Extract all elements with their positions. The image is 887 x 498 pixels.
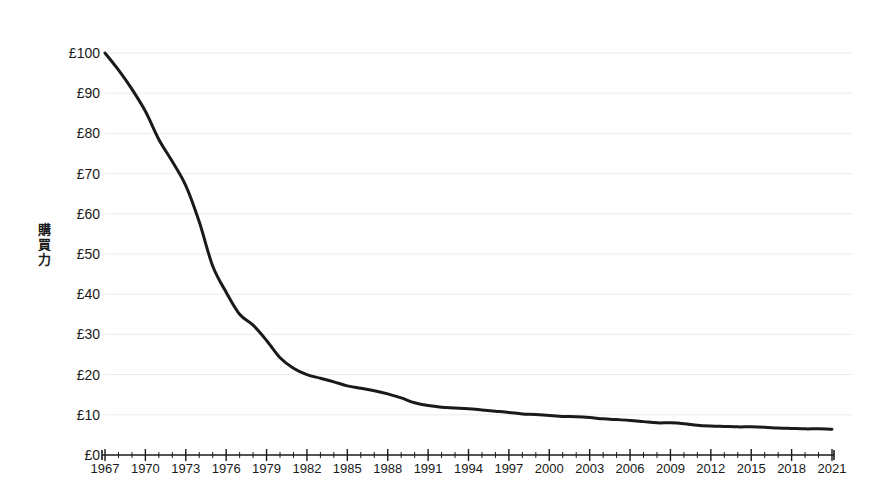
purchasing-power-chart: 購買力 £100£90£80£70£60£50£40£30£20£10£0 19… bbox=[0, 0, 887, 498]
x-axis-tick-label: 1967 bbox=[83, 462, 127, 475]
y-axis-tick-label: £0 bbox=[44, 448, 100, 462]
x-axis-tick-label: 1994 bbox=[447, 462, 491, 475]
x-axis-tick-label: 1997 bbox=[487, 462, 531, 475]
y-axis-tick-label: £30 bbox=[44, 327, 100, 341]
y-axis-tick-label: £40 bbox=[44, 287, 100, 301]
y-axis-tick-label: £20 bbox=[44, 368, 100, 382]
y-axis-tick-label: £10 bbox=[44, 408, 100, 422]
y-axis-tick-label: £60 bbox=[44, 207, 100, 221]
x-axis-tick-label: 2021 bbox=[810, 462, 854, 475]
y-axis-tick-label: £80 bbox=[44, 126, 100, 140]
x-axis-tick-label: 1973 bbox=[164, 462, 208, 475]
x-axis-tick-label: 1970 bbox=[123, 462, 167, 475]
y-axis-tick-label: £90 bbox=[44, 86, 100, 100]
x-axis-tick-label: 2015 bbox=[729, 462, 773, 475]
x-axis-tick-label: 2003 bbox=[568, 462, 612, 475]
x-axis-tick-label: 1976 bbox=[204, 462, 248, 475]
x-axis-tick-label: 1985 bbox=[325, 462, 369, 475]
y-axis-tick-label: £100 bbox=[44, 46, 100, 60]
y-axis-tick-label: £50 bbox=[44, 247, 100, 261]
x-axis-tick-label: 2012 bbox=[689, 462, 733, 475]
x-axis-tick-label: 2009 bbox=[648, 462, 692, 475]
x-axis-tick-label: 1988 bbox=[366, 462, 410, 475]
x-axis-tick-label: 1979 bbox=[245, 462, 289, 475]
x-axis-tick-label: 2018 bbox=[770, 462, 814, 475]
y-axis-tick-labels: £100£90£80£70£60£50£40£30£20£10£0 bbox=[40, 0, 100, 498]
x-axis-tick-label: 2006 bbox=[608, 462, 652, 475]
x-axis-tick-label: 2000 bbox=[527, 462, 571, 475]
y-axis-tick-label: £70 bbox=[44, 167, 100, 181]
x-axis-tick-label: 1982 bbox=[285, 462, 329, 475]
data-line-purchasing-power bbox=[105, 53, 832, 429]
plot-area bbox=[0, 0, 887, 498]
x-axis-tick-label: 1991 bbox=[406, 462, 450, 475]
